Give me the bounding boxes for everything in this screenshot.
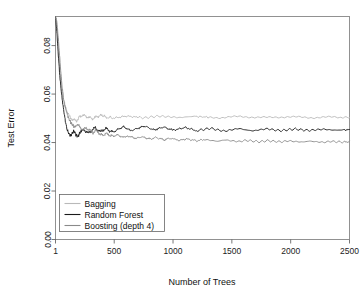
y-tick-label: 0.00 [43, 231, 53, 248]
test-error-vs-trees-chart: 0.000.020.040.060.08 1500100015002000250… [0, 0, 364, 295]
y-tick-label: 0.04 [43, 134, 53, 151]
y-axis-ticks: 0.000.020.040.060.08 [43, 37, 56, 248]
x-tick-label: 1000 [164, 246, 183, 256]
y-tick-label: 0.08 [43, 37, 53, 54]
series-lines [56, 17, 350, 143]
series-line-random-forest [56, 17, 350, 138]
chart-legend: BaggingRandom ForestBoosting (depth 4) [60, 195, 165, 232]
x-tick-label: 2500 [340, 246, 359, 256]
series-line-boosting-depth-4 [56, 17, 350, 143]
y-axis-title: Test Error [6, 108, 16, 147]
x-tick-label: 500 [107, 246, 121, 256]
x-axis-ticks: 15001000150020002500 [53, 240, 359, 256]
x-tick-label: 1 [53, 246, 58, 256]
legend-label-2: Random Forest [85, 210, 144, 220]
y-tick-label: 0.06 [43, 86, 53, 103]
series-line-bagging [56, 17, 350, 123]
x-tick-label: 2000 [281, 246, 300, 256]
legend-label-1: Bagging [85, 199, 116, 209]
x-axis-title: Number of Trees [168, 277, 236, 287]
y-tick-label: 0.02 [43, 182, 53, 199]
x-tick-label: 1500 [222, 246, 241, 256]
legend-label-3: Boosting (depth 4) [85, 221, 155, 231]
chart-page: 0.000.020.040.060.08 1500100015002000250… [0, 0, 364, 295]
